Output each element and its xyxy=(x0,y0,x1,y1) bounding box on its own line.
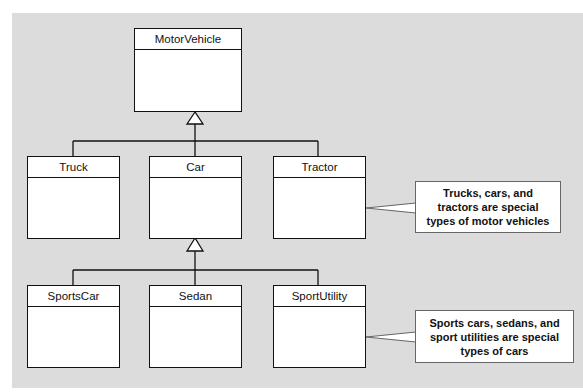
class-truck: Truck xyxy=(27,156,120,239)
callout-pointer-icon xyxy=(366,332,416,342)
class-name: Sedan xyxy=(150,286,241,307)
class-sportutility: SportUtility xyxy=(273,285,366,368)
generalization-arrow-icon xyxy=(187,238,203,251)
class-sportscar: SportsCar xyxy=(27,285,120,368)
callout-text: Sports cars, sedans, and sport utilities… xyxy=(422,316,567,358)
class-sedan: Sedan xyxy=(149,285,242,368)
class-name: Truck xyxy=(28,157,119,178)
class-name: MotorVehicle xyxy=(135,29,241,50)
class-name: Tractor xyxy=(274,157,365,178)
class-motorvehicle: MotorVehicle xyxy=(134,28,242,112)
class-name: SportsCar xyxy=(28,286,119,307)
callout-text: Trucks, cars, and tractors are special t… xyxy=(422,186,554,228)
callout-pointer-icon xyxy=(366,203,416,213)
class-tractor: Tractor xyxy=(273,156,366,239)
class-car: Car xyxy=(149,156,242,239)
generalization-arrow-icon xyxy=(187,112,203,124)
class-name: SportUtility xyxy=(274,286,365,307)
callout-motor-vehicles: Trucks, cars, and tractors are special t… xyxy=(415,181,561,233)
class-name: Car xyxy=(150,157,241,178)
callout-cars: Sports cars, sedans, and sport utilities… xyxy=(415,310,574,363)
